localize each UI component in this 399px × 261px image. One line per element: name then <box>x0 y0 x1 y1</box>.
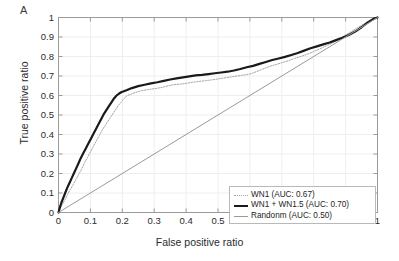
y-tick-label: 0.2 <box>28 169 54 179</box>
legend-item: Randonm (AUC: 0.50) <box>233 211 372 221</box>
x-tick-label: 0.3 <box>139 216 169 226</box>
legend-line-swatch-icon <box>233 190 249 200</box>
y-tick-label: 0.1 <box>28 188 54 198</box>
x-tick-label: 0 <box>44 216 74 226</box>
legend-item-label: Randonm (AUC: 0.50) <box>251 211 332 221</box>
legend-item-label: WN1 (AUC: 0.67) <box>251 190 315 200</box>
y-tick-label: 0.7 <box>28 71 54 81</box>
y-tick-label: 0.3 <box>28 149 54 159</box>
x-tick-label: 0.4 <box>171 216 201 226</box>
x-tick-label: 0.2 <box>107 216 137 226</box>
legend-item: WN1 + WN1.5 (AUC: 0.70) <box>233 200 372 210</box>
y-tick-label: 0.8 <box>28 52 54 62</box>
y-axis-title: True positive ratio <box>18 33 30 173</box>
legend-line-swatch-icon <box>233 200 249 210</box>
y-tick-label: 0.6 <box>28 91 54 101</box>
x-tick-label: 0.1 <box>75 216 105 226</box>
legend-item: WN1 (AUC: 0.67) <box>233 190 372 200</box>
legend-line-swatch-icon <box>233 211 249 221</box>
legend-item-label: WN1 + WN1.5 (AUC: 0.70) <box>251 200 349 210</box>
roc-figure: A 10.90.80.70.60.50.40.30.20.10 00.10.20… <box>0 0 399 261</box>
legend: WN1 (AUC: 0.67)WN1 + WN1.5 (AUC: 0.70)Ra… <box>229 186 376 224</box>
y-tick-label: 1 <box>28 13 54 23</box>
y-tick-label: 0.4 <box>28 130 54 140</box>
x-axis-title: False positive ratio <box>0 236 399 248</box>
y-tick-label: 0.5 <box>28 110 54 120</box>
y-tick-label: 0.9 <box>28 32 54 42</box>
